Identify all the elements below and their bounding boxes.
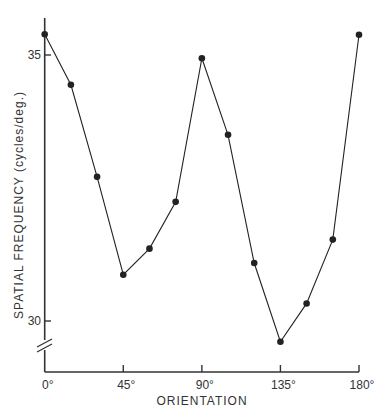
- y-tick-label: 35: [28, 48, 42, 62]
- data-point-marker: [330, 236, 337, 243]
- series-line: [45, 34, 359, 341]
- x-tick-label: 0°: [42, 378, 54, 392]
- x-tick-label: 135°: [271, 378, 296, 392]
- data-point-marker: [120, 271, 127, 278]
- x-tick-label: 90°: [196, 378, 214, 392]
- data-point-marker: [303, 300, 310, 307]
- data-point-marker: [199, 55, 206, 62]
- x-tick-label: 45°: [117, 378, 135, 392]
- axes: [37, 18, 359, 372]
- orientation-spatial-frequency-chart: 0°45°90°135°180° 3035 ORIENTATION SPATIA…: [0, 0, 389, 419]
- x-tick-label: 180°: [350, 378, 375, 392]
- data-point-marker: [356, 31, 363, 38]
- x-axis-title: ORIENTATION: [156, 394, 247, 408]
- data-point-marker: [41, 31, 48, 38]
- data-point-marker: [68, 81, 75, 88]
- x-ticks: 0°45°90°135°180°: [42, 365, 375, 392]
- y-axis-title: SPATIAL FREQUENCY (cycles/deg.): [12, 91, 26, 319]
- y-tick-label: 30: [28, 314, 42, 328]
- data-point-marker: [225, 132, 232, 139]
- data-point-marker: [94, 174, 101, 181]
- data-point-marker: [172, 199, 179, 206]
- y-ticks: 3035: [28, 48, 51, 328]
- data-point-marker: [277, 338, 284, 345]
- data-point-marker: [251, 260, 258, 267]
- data-series: [41, 31, 362, 345]
- data-point-marker: [146, 245, 153, 252]
